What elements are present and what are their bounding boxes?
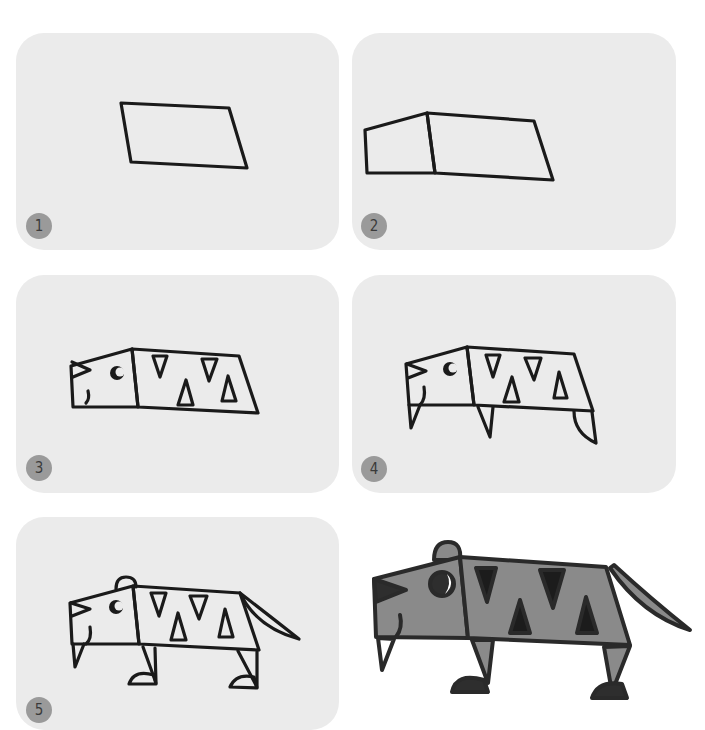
step-badge: 5 bbox=[26, 697, 52, 723]
step-badge: 2 bbox=[361, 213, 387, 239]
step-panel-1: 1 bbox=[16, 33, 339, 250]
step-panel-5: 5 bbox=[16, 517, 339, 730]
tiger-colored-drawing bbox=[352, 520, 705, 730]
step-badge: 4 bbox=[361, 456, 387, 482]
drawing-step-5 bbox=[16, 517, 339, 730]
step-panel-4: 4 bbox=[352, 275, 676, 493]
step-panel-3: 3 bbox=[16, 275, 339, 493]
step-panel-2: 2 bbox=[352, 33, 676, 250]
finished-tiger-illustration bbox=[352, 520, 705, 730]
drawing-step-4 bbox=[352, 275, 676, 493]
drawing-step-3 bbox=[16, 275, 339, 493]
step-badge: 1 bbox=[26, 213, 52, 239]
drawing-step-1 bbox=[16, 33, 339, 250]
step-badge: 3 bbox=[26, 455, 52, 481]
drawing-step-2 bbox=[352, 33, 676, 250]
